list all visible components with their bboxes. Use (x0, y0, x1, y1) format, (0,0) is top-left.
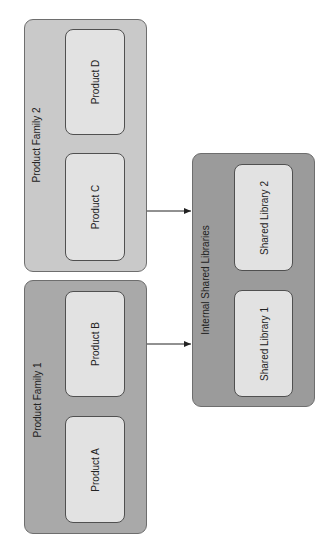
edges-layer (0, 0, 322, 556)
